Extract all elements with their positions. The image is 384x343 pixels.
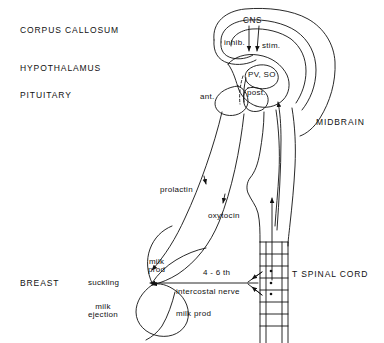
label-inhib: inhib. (224, 39, 245, 47)
milk-duct-curve (146, 292, 175, 340)
label-hypothalamus: HYPOTHALAMUS (20, 64, 101, 73)
spinal-cord-segments (260, 242, 288, 326)
hypothalamus-outline (228, 54, 289, 107)
intercostal-branch-lower-head (252, 287, 262, 295)
label-stim: stim. (262, 42, 280, 50)
label-t-spinal-cord: T SPINAL CORD (292, 270, 368, 279)
oxytocin-arrowhead-mid (223, 194, 225, 203)
stim-arrow-line (257, 26, 259, 51)
milk-ejection-line2: ejection (88, 310, 118, 319)
label-intercostal-nerve-segments: 4 - 6 th (203, 269, 230, 277)
label-midbrain: MIDBRAIN (316, 118, 365, 127)
label-milk-prod-upper: milkprod (148, 258, 165, 275)
corpus-callosum-outer (221, 20, 316, 110)
brainstem-anterior-border (247, 112, 264, 242)
label-post: post. (247, 89, 266, 97)
pituitary-stalk-dash (240, 76, 243, 104)
label-ant: ant. (200, 93, 215, 101)
label-pv-so: PV, SO (248, 71, 276, 79)
oxytocin-pathway (152, 114, 244, 285)
label-corpus-callosum: CORPUS CALLOSUM (20, 26, 119, 35)
label-cns: CNS (243, 17, 262, 26)
label-milk-ejection: milkejection (88, 303, 118, 320)
label-oxytocin: oxytocin (208, 212, 240, 220)
lactation-reflex-diagram: CORPUS CALLOSUM HYPOTHALAMUS PITUITARY M… (0, 0, 384, 343)
anterior-pituitary-lobe (215, 86, 248, 116)
label-pituitary: PITUITARY (20, 91, 72, 100)
label-prolactin: prolactin (160, 186, 193, 194)
milk-prod-upper-line2: prod (148, 265, 165, 274)
prolactin-arrowhead-mid (204, 176, 206, 184)
label-suckling: suckling (88, 279, 119, 287)
brainstem-posterior-border (288, 108, 295, 246)
label-milk-prod-lower: milk prod (176, 310, 211, 318)
label-breast: BREAST (20, 279, 59, 288)
label-intercostal-nerve: intercostal nerve (176, 288, 240, 296)
